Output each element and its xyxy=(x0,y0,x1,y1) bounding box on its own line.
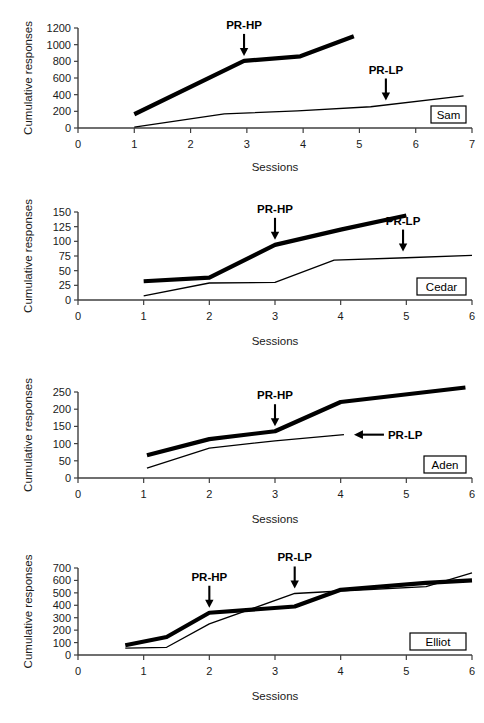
y-tick-label: 500 xyxy=(53,587,71,599)
x-tick-label: 6 xyxy=(469,665,475,677)
y-tick-label: 600 xyxy=(53,574,71,586)
y-tick-label: 100 xyxy=(53,637,71,649)
cumulative-response-figure: 02004006008001000120001234567SessionsCum… xyxy=(0,0,484,723)
subject-label-text: Elliot xyxy=(426,636,452,648)
annotation-arrow-head xyxy=(291,580,299,588)
y-tick-label: 700 xyxy=(53,562,71,574)
x-tick-label: 4 xyxy=(338,665,344,677)
x-tick-label: 0 xyxy=(75,665,81,677)
y-axis-title: Cumulative responses xyxy=(22,554,34,668)
x-tick-label: 5 xyxy=(403,665,409,677)
x-axis-title: Sessions xyxy=(252,690,299,702)
panel-plot-elliot: 01002003004005006007000123456SessionsCum… xyxy=(0,0,484,723)
x-tick-label: 1 xyxy=(141,665,147,677)
x-tick-label: 2 xyxy=(206,665,212,677)
y-tick-label: 0 xyxy=(65,649,71,661)
annotation-label: PR-LP xyxy=(277,551,312,563)
y-tick-label: 200 xyxy=(53,624,71,636)
y-tick-label: 300 xyxy=(53,612,71,624)
annotation-label: PR-HP xyxy=(191,571,227,583)
x-tick-label: 3 xyxy=(272,665,278,677)
annotation-arrow-head xyxy=(205,600,213,608)
y-tick-label: 400 xyxy=(53,599,71,611)
